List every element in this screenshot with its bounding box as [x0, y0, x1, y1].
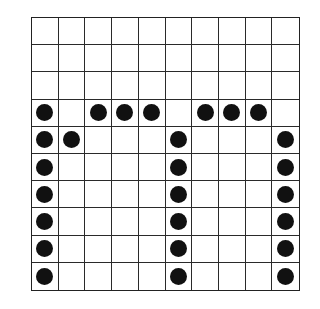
grid-cell: [219, 181, 246, 208]
grid-cell: [246, 45, 273, 72]
grid-cell: [85, 263, 112, 290]
grid-cell: [112, 154, 139, 181]
grid-cell: [59, 100, 86, 127]
grid-cell: [219, 72, 246, 99]
grid-cell: [139, 181, 166, 208]
dot-marker: [36, 240, 53, 257]
grid-cell: [272, 100, 299, 127]
dot-marker: [170, 186, 187, 203]
grid-cell: [85, 236, 112, 263]
grid-cell: [246, 100, 273, 127]
grid-cell: [112, 45, 139, 72]
dot-marker: [170, 131, 187, 148]
grid-cell: [59, 236, 86, 263]
dot-marker: [277, 213, 294, 230]
grid-cell: [85, 208, 112, 235]
grid-cell: [85, 154, 112, 181]
grid-cell: [139, 208, 166, 235]
grid-cell: [246, 181, 273, 208]
grid-cell: [246, 263, 273, 290]
grid-cell: [192, 127, 219, 154]
grid-cell: [112, 181, 139, 208]
grid-cell: [85, 181, 112, 208]
dot-marker: [143, 104, 160, 121]
grid-cell: [272, 45, 299, 72]
grid-cell: [246, 72, 273, 99]
grid-cell: [166, 181, 193, 208]
grid-cell: [272, 18, 299, 45]
grid-cell: [139, 263, 166, 290]
dot-marker: [277, 159, 294, 176]
grid-cell: [246, 127, 273, 154]
grid-cell: [32, 100, 59, 127]
grid-cell: [85, 72, 112, 99]
grid-cell: [272, 236, 299, 263]
grid-cell: [192, 100, 219, 127]
grid-cell: [272, 181, 299, 208]
dot-marker: [36, 104, 53, 121]
grid-cell: [32, 127, 59, 154]
grid-cell: [192, 72, 219, 99]
grid-cell: [112, 208, 139, 235]
grid-cell: [219, 45, 246, 72]
grid-cell: [166, 18, 193, 45]
grid-cell: [59, 181, 86, 208]
grid-cell: [139, 100, 166, 127]
grid-cell: [219, 208, 246, 235]
grid-cell: [139, 154, 166, 181]
grid-cell: [246, 18, 273, 45]
dot-marker: [250, 104, 267, 121]
grid-cell: [219, 100, 246, 127]
dot-marker: [90, 104, 107, 121]
dot-marker: [197, 104, 214, 121]
grid-cell: [219, 236, 246, 263]
dot-marker: [223, 104, 240, 121]
grid-cell: [139, 72, 166, 99]
grid-cell: [192, 154, 219, 181]
grid-cell: [85, 127, 112, 154]
grid-cell: [139, 45, 166, 72]
grid-cell: [59, 208, 86, 235]
grid-cell: [272, 72, 299, 99]
grid-cell: [139, 127, 166, 154]
dot-marker: [277, 131, 294, 148]
grid-cell: [272, 208, 299, 235]
grid-cell: [32, 208, 59, 235]
grid-cell: [32, 72, 59, 99]
grid-cell: [59, 127, 86, 154]
grid-cell: [219, 154, 246, 181]
grid-cell: [192, 18, 219, 45]
dot-grid: [31, 17, 300, 291]
grid-cell: [166, 154, 193, 181]
grid-cell: [166, 72, 193, 99]
grid-cell: [32, 18, 59, 45]
dot-marker: [277, 268, 294, 285]
grid-cell: [166, 236, 193, 263]
grid-cell: [192, 45, 219, 72]
grid-cell: [112, 236, 139, 263]
grid-cell: [192, 208, 219, 235]
grid-cell: [219, 18, 246, 45]
grid-cell: [192, 236, 219, 263]
dot-marker: [116, 104, 133, 121]
grid-cell: [192, 181, 219, 208]
grid-cell: [166, 100, 193, 127]
grid-cell: [166, 127, 193, 154]
grid-cell: [192, 263, 219, 290]
grid-cell: [85, 100, 112, 127]
dot-marker: [170, 159, 187, 176]
dot-marker: [170, 268, 187, 285]
dot-marker: [36, 268, 53, 285]
grid-cell: [246, 208, 273, 235]
grid-cell: [219, 263, 246, 290]
grid-cell: [272, 127, 299, 154]
dot-marker: [36, 213, 53, 230]
grid-cell: [139, 18, 166, 45]
grid-cell: [112, 127, 139, 154]
dot-marker: [170, 240, 187, 257]
grid-cell: [272, 263, 299, 290]
dot-marker: [277, 240, 294, 257]
dot-marker: [63, 131, 80, 148]
grid-cell: [32, 45, 59, 72]
grid-cell: [32, 236, 59, 263]
